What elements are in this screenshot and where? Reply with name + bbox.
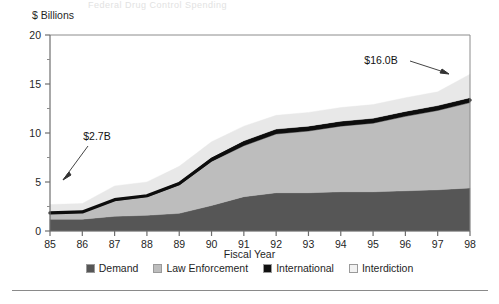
y-tick-label: 5 — [35, 176, 41, 188]
y-tick-label: 15 — [29, 78, 41, 90]
annotation-arrowhead-end — [440, 69, 449, 74]
legend-item-interdiction[interactable]: Interdiction — [349, 262, 413, 274]
legend-swatch-international — [263, 264, 272, 273]
chart-legend: Demand Law Enforcement International Int… — [0, 262, 499, 274]
legend-swatch-demand — [86, 264, 95, 273]
legend-item-demand[interactable]: Demand — [86, 262, 139, 274]
legend-swatch-interdiction — [349, 264, 358, 273]
y-tick-label: 20 — [29, 29, 41, 41]
annotation-label-start: $2.7B — [83, 130, 110, 142]
legend-label-law-enforcement: Law Enforcement — [166, 262, 248, 274]
annotation-arrowhead-start — [63, 172, 71, 180]
y-tick-label: 0 — [35, 225, 41, 237]
x-axis-title: Fiscal Year — [0, 248, 499, 260]
legend-swatch-law-enforcement — [153, 264, 162, 273]
legend-label-international: International — [276, 262, 334, 274]
legend-item-law-enforcement[interactable]: Law Enforcement — [153, 262, 248, 274]
y-tick-label: 10 — [29, 127, 41, 139]
annotation-label-end: $16.0B — [364, 54, 397, 66]
footer-divider — [12, 290, 488, 291]
legend-item-international[interactable]: International — [263, 262, 334, 274]
legend-label-demand: Demand — [99, 262, 139, 274]
chart-figure: Federal Drug Control Spending $ Billions… — [0, 0, 499, 304]
legend-label-interdiction: Interdiction — [362, 262, 413, 274]
